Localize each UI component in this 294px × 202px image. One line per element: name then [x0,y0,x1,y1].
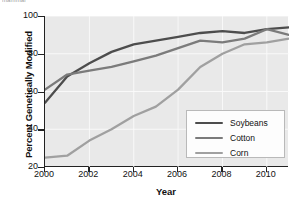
chart-legend: SoybeansCottonCorn [186,110,285,158]
x-axis-title: Year [44,186,288,197]
legend-swatch-icon [195,137,223,140]
x-tick-mark [266,167,267,172]
legend-item-corn: Corn [187,145,286,161]
cropped-caption-text: mammal [2,0,26,4]
legend-swatch-icon [195,122,223,125]
legend-label: Corn [230,148,248,158]
y-tick-label: 80 [4,48,38,58]
y-tick-mark [38,92,44,93]
y-tick-mark [38,129,44,130]
x-tick-mark [44,167,45,172]
legend-label: Cotton [230,133,255,143]
x-tick-mark [133,167,134,172]
y-tick-mark [38,16,44,17]
chart-figure: mammal Percent Genetically Modified 2040… [0,0,294,202]
legend-item-cotton: Cotton [187,130,286,146]
legend-swatch-icon [195,152,223,155]
legend-label: Soybeans [230,118,268,128]
x-tick-mark [177,167,178,172]
y-tick-label: 40 [4,123,38,133]
x-tick-mark [221,167,222,172]
y-tick-label: 100 [4,10,38,20]
legend-item-soybeans: Soybeans [187,115,286,131]
y-tick-label: 60 [4,86,38,96]
x-tick-mark [88,167,89,172]
y-tick-mark [38,54,44,55]
